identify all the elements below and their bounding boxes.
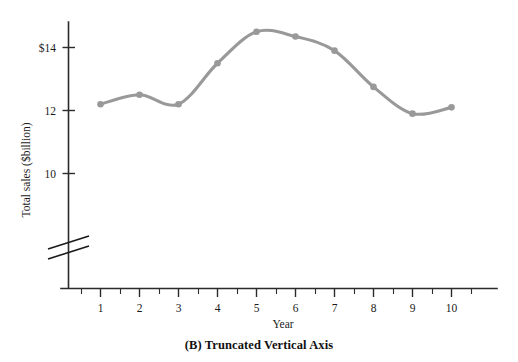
data-point-year-3 bbox=[175, 101, 182, 108]
data-point-year-9 bbox=[409, 110, 416, 117]
data-point-year-2 bbox=[136, 91, 143, 98]
y-tick-label-10: 10 bbox=[45, 168, 57, 180]
data-point-year-5 bbox=[253, 28, 260, 35]
line-chart: $14 12 10 Total sales ($billion) bbox=[0, 0, 518, 362]
data-point-year-8 bbox=[370, 84, 377, 91]
x-tick-label-7: 7 bbox=[332, 302, 338, 314]
x-tick-label-4: 4 bbox=[215, 302, 221, 314]
figure-caption: (B) Truncated Vertical Axis bbox=[0, 338, 518, 353]
x-tick-label-1: 1 bbox=[98, 302, 104, 314]
x-tick-label-8: 8 bbox=[371, 302, 377, 314]
x-tick-label-3: 3 bbox=[176, 302, 182, 314]
x-axis-title: Year bbox=[272, 318, 293, 330]
figure-truncated-vertical-axis: $14 12 10 Total sales ($billion) bbox=[0, 0, 518, 362]
data-point-year-10 bbox=[448, 104, 455, 111]
data-point-year-4 bbox=[214, 60, 221, 67]
x-tick-label-2: 2 bbox=[137, 302, 143, 314]
x-tick-label-5: 5 bbox=[254, 302, 260, 314]
x-tick-label-10: 10 bbox=[446, 302, 458, 314]
data-point-year-6 bbox=[292, 33, 299, 40]
x-tick-label-9: 9 bbox=[410, 302, 416, 314]
x-tick-labels-group: 1 2 3 4 5 6 7 8 9 10 bbox=[98, 302, 458, 314]
x-tick-label-6: 6 bbox=[293, 302, 299, 314]
axes-group bbox=[61, 22, 497, 289]
data-point-year-1 bbox=[97, 101, 104, 108]
y-tick-label-14: $14 bbox=[39, 42, 57, 54]
series-line-total-sales bbox=[101, 30, 452, 114]
series-markers-group bbox=[97, 28, 455, 117]
data-point-year-7 bbox=[331, 47, 338, 54]
y-axis-title: Total sales ($billion) bbox=[20, 122, 33, 217]
y-tick-label-12: 12 bbox=[45, 105, 57, 117]
